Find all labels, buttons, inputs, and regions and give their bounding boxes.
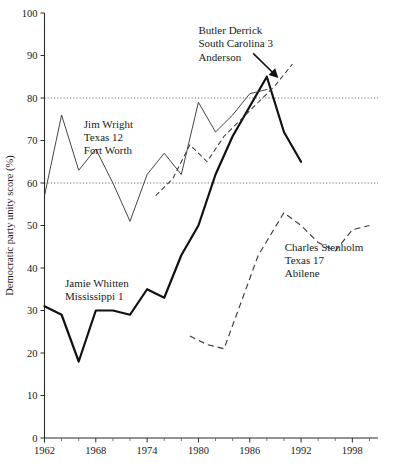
y-tick-label-30: 30 — [27, 305, 38, 316]
y-axis-ticks-group — [41, 13, 45, 438]
x-tick-label-1998: 1998 — [342, 445, 363, 456]
x-tick-label-1980: 1980 — [188, 445, 209, 456]
annotation-line: South Carolina 3 — [198, 37, 273, 49]
data-series-group — [45, 64, 370, 362]
axes-group — [45, 13, 379, 438]
series-line-butler-derrick — [156, 64, 293, 196]
y-tick-label-100: 100 — [22, 8, 38, 19]
y-tick-label-20: 20 — [27, 348, 38, 359]
y-axis-title: Democratic party unity score (%) — [4, 155, 16, 296]
y-tick-label-60: 60 — [27, 178, 38, 189]
y-tick-label-90: 90 — [27, 50, 38, 61]
annotations-group: Jim WrightTexas 12Fort WorthJamie Whitte… — [65, 24, 364, 302]
y-tick-label-0: 0 — [32, 433, 37, 444]
axis-lines — [45, 13, 379, 438]
y-axis-title-group: Democratic party unity score (%) — [4, 155, 16, 296]
annotation-line: Charles Stenholm — [285, 241, 364, 253]
y-tick-label-40: 40 — [27, 263, 38, 274]
annotation-line: Anderson — [198, 51, 241, 63]
y-tick-label-10: 10 — [27, 390, 38, 401]
party-unity-line-chart: 0102030405060708090100 19621968197419801… — [0, 0, 395, 473]
y-tick-label-50: 50 — [27, 220, 38, 231]
chart-figure: 0102030405060708090100 19621968197419801… — [0, 0, 395, 473]
series-line-jim-wright — [45, 90, 267, 222]
x-tick-label-1992: 1992 — [291, 445, 312, 456]
x-tick-label-1968: 1968 — [85, 445, 106, 456]
series-line-charles-stenholm — [190, 213, 370, 349]
annotation-line: Fort Worth — [84, 144, 133, 156]
x-axis-ticks-group — [45, 438, 370, 443]
x-tick-label-1962: 1962 — [34, 445, 55, 456]
annotation-line: Texas 12 — [84, 131, 123, 143]
annotation-line: Texas 17 — [285, 254, 325, 266]
x-tick-label-1986: 1986 — [239, 445, 260, 456]
x-axis-tick-labels-group: 1962196819741980198619921998 — [34, 445, 363, 456]
annotation-line: Jamie Whitten — [65, 277, 129, 289]
annotation-line: Jim Wright — [84, 118, 133, 130]
annotation-stenholm-label: Charles StenholmTexas 17Abilene — [285, 241, 364, 279]
y-tick-label-80: 80 — [27, 93, 38, 104]
annotation-derrick-label: Butler DerrickSouth Carolina 3Anderson — [198, 24, 277, 77]
annotation-line: Mississippi 1 — [65, 290, 123, 302]
annotation-whitten-label: Jamie WhittenMississippi 1 — [65, 277, 129, 302]
y-axis-tick-labels-group: 0102030405060708090100 — [22, 8, 38, 444]
x-tick-label-1974: 1974 — [137, 445, 159, 456]
annotation-wright-label: Jim WrightTexas 12Fort Worth — [84, 118, 133, 156]
annotation-line: Butler Derrick — [198, 24, 262, 36]
y-tick-label-70: 70 — [27, 135, 38, 146]
annotation-line: Abilene — [285, 267, 320, 279]
